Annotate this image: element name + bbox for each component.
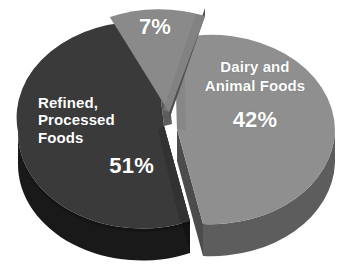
pie-chart: Dairy and Animal Foods 42% Refined, Proc… xyxy=(0,0,341,270)
pie-chart-graphic xyxy=(0,0,341,270)
